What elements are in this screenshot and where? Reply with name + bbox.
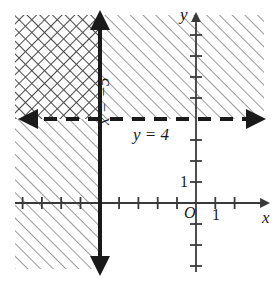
boundary-label-x-equals-minus-5: x = −5	[95, 55, 112, 125]
y-axis-unit-tick-label: 1	[180, 174, 188, 190]
inequality-system-graph: y x O 1 1 y = 4 x = −5	[0, 0, 279, 284]
y-axis-label: y	[180, 6, 188, 23]
x-axis-unit-tick-label: 1	[212, 207, 220, 223]
region-upper-right	[100, 15, 264, 119]
x-axis-label: x	[262, 209, 270, 226]
region-lower-left	[15, 119, 100, 269]
origin-label: O	[184, 205, 196, 221]
boundary-label-y-equals-4: y = 4	[133, 126, 169, 143]
region-upper-left-overlap	[15, 15, 100, 119]
